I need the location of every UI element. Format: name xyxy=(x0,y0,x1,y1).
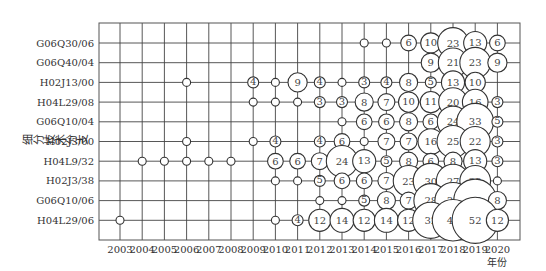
bubble-value-label: 4 xyxy=(383,76,389,87)
bubble-value-label: 4 xyxy=(317,76,323,87)
bubble-value-label: 9 xyxy=(494,57,500,68)
bubble-value-label: 22 xyxy=(469,136,482,147)
y-tick-label: H04L9/32 xyxy=(43,156,94,167)
data-bubble xyxy=(294,177,302,185)
data-bubble xyxy=(316,197,324,205)
bubble-value-label: 6 xyxy=(405,37,411,48)
bubble-value-label: 7 xyxy=(383,175,389,186)
bubble-value-label: 14 xyxy=(336,215,349,226)
bubble-value-label: 8 xyxy=(405,116,411,127)
bubbles: 6102313692123949434851310338710112016366… xyxy=(116,28,508,244)
bubble-value-label: 8 xyxy=(494,195,500,206)
data-bubble xyxy=(382,39,390,47)
bubble-value-label: 12 xyxy=(491,215,504,226)
data-bubble xyxy=(271,216,279,224)
bubble-value-label: 9 xyxy=(294,77,300,88)
data-bubble xyxy=(249,98,257,106)
bubble-value-label: 4 xyxy=(317,135,323,146)
data-bubble xyxy=(160,157,168,165)
bubble-value-label: 11 xyxy=(424,96,437,107)
bubble-value-label: 10 xyxy=(424,37,437,48)
bubble-value-label: 3 xyxy=(317,96,323,107)
bubble-value-label: 8 xyxy=(405,77,411,88)
y-tick-labels: G06Q30/06G06Q40/04H02J13/00H04L29/08G06Q… xyxy=(36,38,94,226)
bubble-value-label: 23 xyxy=(469,57,482,68)
bubble-value-label: 6 xyxy=(294,156,300,167)
bubble-chart: 6102313692123949434851310338710112016366… xyxy=(0,0,546,271)
bubble-value-label: 3 xyxy=(494,96,500,107)
bubble-value-label: 52 xyxy=(469,215,482,226)
data-bubble xyxy=(360,138,368,146)
y-tick-label: H04L29/06 xyxy=(37,215,94,226)
x-axis-title: 年份 xyxy=(487,256,507,268)
bubble-value-label: 13 xyxy=(358,155,371,166)
bubble-value-label: 12 xyxy=(358,215,371,226)
bubble-value-label: 5 xyxy=(428,76,434,87)
data-bubble xyxy=(227,157,235,165)
bubble-value-label: 3 xyxy=(361,76,367,87)
bubble-value-label: 3 xyxy=(494,135,500,146)
bubble-value-label: 7 xyxy=(405,195,411,206)
bubble-value-label: 6 xyxy=(383,116,389,127)
data-bubble xyxy=(493,177,501,185)
bubble-value-label: 5 xyxy=(317,174,323,185)
bubble-value-label: 14 xyxy=(380,215,393,226)
y-tick-label: H04L29/08 xyxy=(37,97,94,108)
data-bubble xyxy=(138,157,146,165)
bubble-value-label: 13 xyxy=(447,77,460,88)
bubble-value-label: 8 xyxy=(383,195,389,206)
data-bubble xyxy=(360,39,368,47)
bubble-value-label: 5 xyxy=(494,115,500,126)
data-bubble xyxy=(294,98,302,106)
bubble-value-label: 7 xyxy=(383,97,389,108)
data-bubble xyxy=(338,78,346,86)
data-bubble xyxy=(205,157,213,165)
x-tick-label: 2020 xyxy=(485,244,510,255)
data-bubble xyxy=(183,138,191,146)
data-bubble xyxy=(249,138,257,146)
bubble-value-label: 10 xyxy=(469,77,482,88)
data-bubble xyxy=(183,78,191,86)
bubble-value-label: 10 xyxy=(402,96,415,107)
bubble-value-label: 6 xyxy=(428,116,434,127)
y-tick-label: H02J13/00 xyxy=(40,77,94,88)
bubble-value-label: 5 xyxy=(361,194,367,205)
bubble-value-label: 4 xyxy=(272,135,278,146)
bubble-value-label: 13 xyxy=(469,155,482,166)
y-tick-label: G06Q40/04 xyxy=(36,57,94,68)
bubble-value-label: 8 xyxy=(361,97,367,108)
bubble-value-label: 16 xyxy=(424,136,437,147)
y-tick-label: G06Q10/04 xyxy=(36,116,94,127)
y-tick-label: G06Q10/06 xyxy=(36,195,94,206)
data-bubble xyxy=(271,78,279,86)
data-bubble xyxy=(338,197,346,205)
bubble-value-label: 5 xyxy=(383,155,389,166)
bubble-value-label: 4 xyxy=(250,76,256,87)
data-bubble xyxy=(116,216,124,224)
y-tick-label: G06Q30/06 xyxy=(36,38,94,49)
bubble-value-label: 4 xyxy=(294,214,300,225)
y-tick-label: H02J3/38 xyxy=(46,175,94,186)
bubble-value-label: 7 xyxy=(383,136,389,147)
bubble-value-label: 7 xyxy=(317,156,323,167)
bubble-value-label: 9 xyxy=(428,57,434,68)
bubble-value-label: 33 xyxy=(469,116,482,127)
bubble-value-label: 23 xyxy=(447,38,460,49)
bubble-value-label: 6 xyxy=(361,175,367,186)
bubble-value-label: 7 xyxy=(405,136,411,147)
bubble-value-label: 6 xyxy=(272,156,278,167)
bubble-value-label: 25 xyxy=(447,136,460,147)
x-tick-labels: 2003200420052006200720082009201020112012… xyxy=(107,244,510,255)
bubble-value-label: 3 xyxy=(494,155,500,166)
bubble-value-label: 13 xyxy=(469,37,482,48)
bubble-value-label: 24 xyxy=(336,156,349,167)
bubble-value-label: 6 xyxy=(361,116,367,127)
bubble-value-label: 12 xyxy=(313,215,326,226)
bubble-value-label: 6 xyxy=(339,175,345,186)
bubble-value-label: 6 xyxy=(494,37,500,48)
data-bubble xyxy=(338,118,346,126)
data-bubble xyxy=(271,177,279,185)
bubble-value-label: 21 xyxy=(447,57,460,68)
y-axis-title: 细分技术分支 xyxy=(22,133,89,147)
data-bubble xyxy=(183,157,191,165)
